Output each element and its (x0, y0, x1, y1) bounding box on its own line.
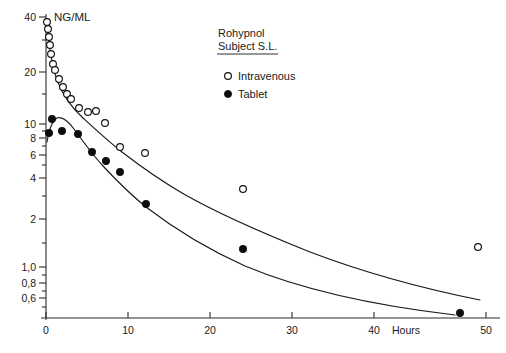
x-tick-label: 50 (480, 324, 492, 336)
y-tick-label: 8 (30, 132, 36, 144)
chart-container: 40 20 10 8 6 4 2 1,0 0,8 0,6 NG/ML 0 10 … (0, 0, 506, 353)
fitted-curves (47, 24, 480, 315)
data-point (142, 150, 149, 157)
chart-legend: Intravenous Tablet (224, 70, 296, 100)
y-tick-label: 20 (24, 66, 36, 78)
y-tick-label: 0,8 (21, 277, 36, 289)
data-point (88, 148, 95, 155)
x-axis-tick-labels: 0 10 20 30 40 50 (43, 324, 492, 336)
curve-tablet (47, 118, 455, 315)
data-point (45, 26, 52, 33)
data-point (56, 76, 63, 83)
y-axis-tick-labels: 40 20 10 8 6 4 2 1,0 0,8 0,6 (21, 11, 36, 304)
x-tick-label: 10 (122, 324, 134, 336)
data-point (47, 42, 54, 49)
y-tick-label: 4 (30, 172, 36, 184)
x-tick-label: 0 (43, 324, 49, 336)
data-point (93, 108, 100, 115)
data-point (58, 127, 65, 134)
data-point (45, 129, 52, 136)
page-title: Rohypnol (218, 27, 264, 39)
data-point (52, 67, 59, 74)
data-point (76, 105, 83, 112)
series-intravenous-points (44, 19, 482, 251)
y-tick-label: 1,0 (21, 261, 36, 273)
data-point (116, 168, 123, 175)
y-tick-label: 2 (30, 213, 36, 225)
y-tick-label: 6 (30, 149, 36, 161)
y-tick-label: 10 (24, 118, 36, 130)
x-axis-label: Hours (392, 324, 420, 336)
data-point (44, 19, 51, 26)
series-tablet-points (45, 115, 463, 316)
data-point (456, 309, 463, 316)
legend-label-tablet: Tablet (238, 88, 267, 100)
data-point (85, 109, 92, 116)
data-point (102, 157, 109, 164)
data-point (117, 144, 124, 151)
curve-intravenous (47, 24, 480, 300)
data-point (142, 200, 149, 207)
data-point (475, 244, 482, 251)
data-point (46, 34, 53, 41)
axes (41, 14, 500, 320)
x-tick-label: 20 (204, 324, 216, 336)
data-point (48, 115, 55, 122)
x-axis-ticks (46, 312, 486, 318)
x-tick-label: 30 (286, 324, 298, 336)
legend-label-intravenous: Intravenous (238, 70, 296, 82)
data-point (60, 84, 67, 91)
legend-marker-intravenous (225, 73, 232, 80)
y-tick-label: 40 (24, 11, 36, 23)
chart-title-block: Rohypnol Subject S.L. (217, 27, 278, 54)
x-tick-label: 40 (368, 324, 380, 336)
rohypnol-concentration-chart: 40 20 10 8 6 4 2 1,0 0,8 0,6 NG/ML 0 10 … (0, 0, 506, 353)
data-point (48, 51, 55, 58)
data-point (102, 120, 109, 127)
y-axis-major-ticks (39, 17, 46, 298)
chart-subtitle: Subject S.L. (218, 40, 277, 52)
data-point (240, 186, 247, 193)
data-point (74, 130, 81, 137)
y-tick-label: 0,6 (21, 292, 36, 304)
data-point (239, 245, 246, 252)
legend-marker-tablet (224, 90, 231, 97)
y-axis-unit-label: NG/ML (54, 11, 91, 23)
data-point (68, 96, 75, 103)
